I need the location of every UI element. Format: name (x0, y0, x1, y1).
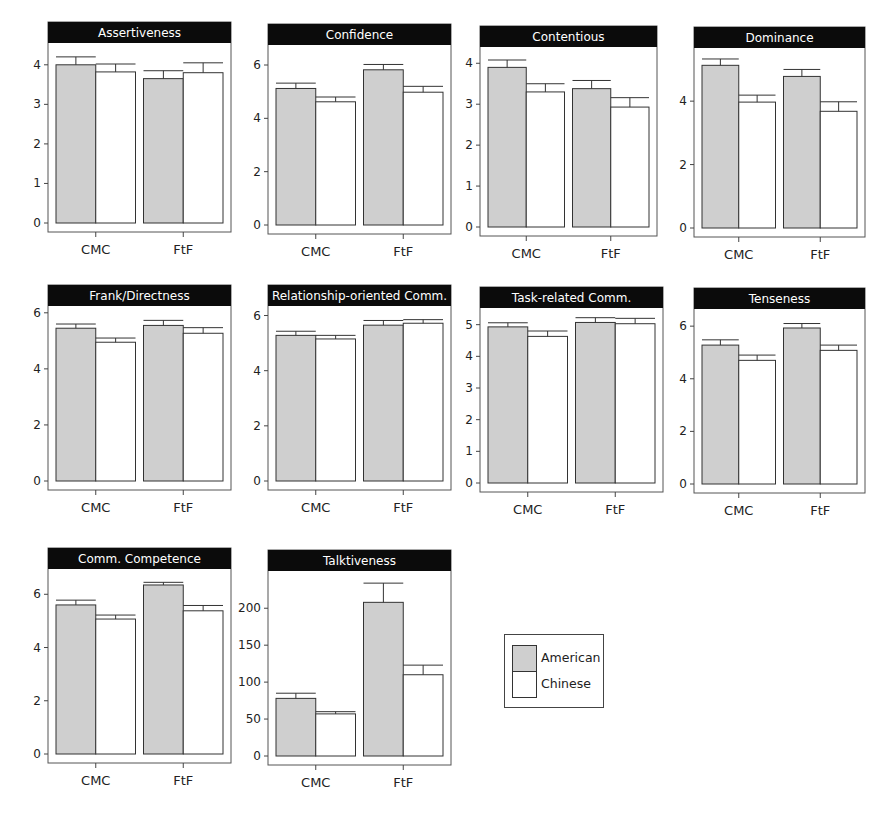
x-category-label: FtF (810, 247, 830, 262)
y-tick-label: 4 (253, 111, 261, 125)
chart-panel-confidence: Confidence0246CMCFtF (250, 24, 452, 269)
y-tick-label: 3 (465, 381, 473, 395)
chart-panel-contentious: Contentious01234CMCFtF (462, 26, 658, 271)
y-tick-label: 0 (465, 476, 473, 490)
bar-american-ftf (364, 602, 404, 756)
y-tick-label: 5 (465, 318, 473, 332)
x-category-label: CMC (513, 502, 542, 517)
y-tick-label: 6 (33, 587, 41, 601)
chart-panel-comm-competence: Comm. Competence0246CMCFtF (30, 548, 232, 798)
y-tick-label: 100 (238, 675, 261, 689)
chart-panel-frank-directness: Frank/Directness0246CMCFtF (30, 285, 232, 525)
y-tick-label: 2 (33, 418, 41, 432)
legend-swatch-chinese (512, 671, 537, 698)
panel-title: Assertiveness (98, 26, 181, 40)
bar-chinese-cmc (739, 102, 776, 228)
y-tick-label: 0 (253, 474, 261, 488)
y-tick-label: 2 (679, 158, 687, 172)
y-tick-label: 4 (33, 58, 41, 72)
bar-chinese-cmc (526, 92, 564, 227)
bar-american-ftf (784, 328, 821, 484)
panel-title: Task-related Comm. (511, 291, 631, 305)
y-tick-label: 1 (33, 176, 41, 190)
chart-panel-assertiveness: Assertiveness01234CMCFtF (30, 22, 232, 267)
bar-chinese-ftf (403, 92, 443, 225)
y-tick-label: 2 (33, 137, 41, 151)
x-category-label: FtF (393, 500, 413, 515)
y-tick-label: 0 (253, 218, 261, 232)
bar-american-ftf (364, 325, 404, 481)
x-category-label: FtF (393, 244, 413, 259)
bar-american-cmc (702, 345, 739, 484)
bar-chinese-ftf (403, 675, 443, 756)
bar-american-cmc (702, 65, 739, 228)
x-category-label: CMC (301, 775, 330, 790)
y-tick-label: 4 (679, 94, 687, 108)
bar-chinese-cmc (316, 102, 356, 225)
bar-chinese-ftf (820, 111, 857, 228)
legend-label-chinese: Chinese (541, 676, 591, 691)
panel-title: Talktiveness (322, 554, 396, 568)
y-tick-label: 3 (33, 97, 41, 111)
bar-chinese-cmc (316, 339, 356, 481)
x-category-label: CMC (301, 500, 330, 515)
y-tick-label: 4 (465, 349, 473, 363)
bar-american-ftf (144, 79, 184, 223)
y-tick-label: 200 (238, 601, 261, 615)
y-tick-label: 2 (465, 413, 473, 427)
bar-chinese-ftf (183, 611, 223, 754)
bar-chinese-ftf (615, 324, 655, 483)
x-category-label: FtF (173, 500, 193, 515)
y-tick-label: 2 (679, 424, 687, 438)
y-tick-label: 2 (253, 165, 261, 179)
y-tick-label: 6 (253, 58, 261, 72)
y-tick-label: 2 (33, 694, 41, 708)
chart-panel-talktiveness: Talktiveness050100150200CMCFtF (250, 550, 452, 800)
legend-label-american: American (541, 650, 601, 665)
x-category-label: FtF (173, 242, 193, 257)
bar-american-cmc (488, 327, 528, 483)
bar-chinese-ftf (403, 323, 443, 481)
y-tick-label: 0 (679, 477, 687, 491)
bar-chinese-ftf (183, 73, 223, 223)
bar-american-cmc (276, 698, 316, 756)
panel-title: Relationship-oriented Comm. (272, 289, 447, 303)
y-tick-label: 2 (253, 419, 261, 433)
x-category-label: CMC (81, 242, 110, 257)
panel-title: Contentious (532, 30, 604, 44)
y-tick-label: 0 (33, 747, 41, 761)
bar-american-cmc (56, 65, 96, 223)
bar-american-ftf (144, 325, 184, 481)
panel-title: Tenseness (748, 292, 810, 306)
y-tick-label: 6 (33, 306, 41, 320)
panel-title: Frank/Directness (89, 289, 189, 303)
y-tick-label: 4 (679, 372, 687, 386)
bar-american-ftf (576, 322, 616, 483)
x-category-label: CMC (81, 773, 110, 788)
bar-american-cmc (276, 88, 316, 225)
x-category-label: FtF (810, 503, 830, 518)
bar-chinese-cmc (96, 619, 136, 754)
y-tick-label: 0 (465, 220, 473, 234)
bar-american-cmc (56, 328, 96, 481)
x-category-label: FtF (605, 502, 625, 517)
y-tick-label: 1 (465, 179, 473, 193)
y-tick-label: 1 (465, 444, 473, 458)
chart-panel-relationship-oriented-comm: Relationship-oriented Comm.0246CMCFtF (250, 285, 452, 525)
y-tick-label: 0 (253, 749, 261, 763)
x-category-label: FtF (393, 775, 413, 790)
bar-american-ftf (573, 89, 611, 227)
y-tick-label: 0 (33, 216, 41, 230)
bar-chinese-cmc (96, 342, 136, 481)
x-category-label: FtF (601, 246, 621, 261)
legend-swatch-american (512, 645, 537, 672)
bar-chinese-cmc (316, 714, 356, 756)
y-tick-label: 150 (238, 638, 261, 652)
bar-american-ftf (364, 70, 404, 225)
bar-chinese-cmc (528, 336, 568, 483)
chart-panel-tenseness: Tenseness0246CMCFtF (676, 288, 866, 528)
bar-chinese-cmc (739, 360, 776, 484)
y-tick-label: 4 (253, 364, 261, 378)
bar-american-ftf (784, 76, 821, 228)
x-category-label: CMC (81, 500, 110, 515)
